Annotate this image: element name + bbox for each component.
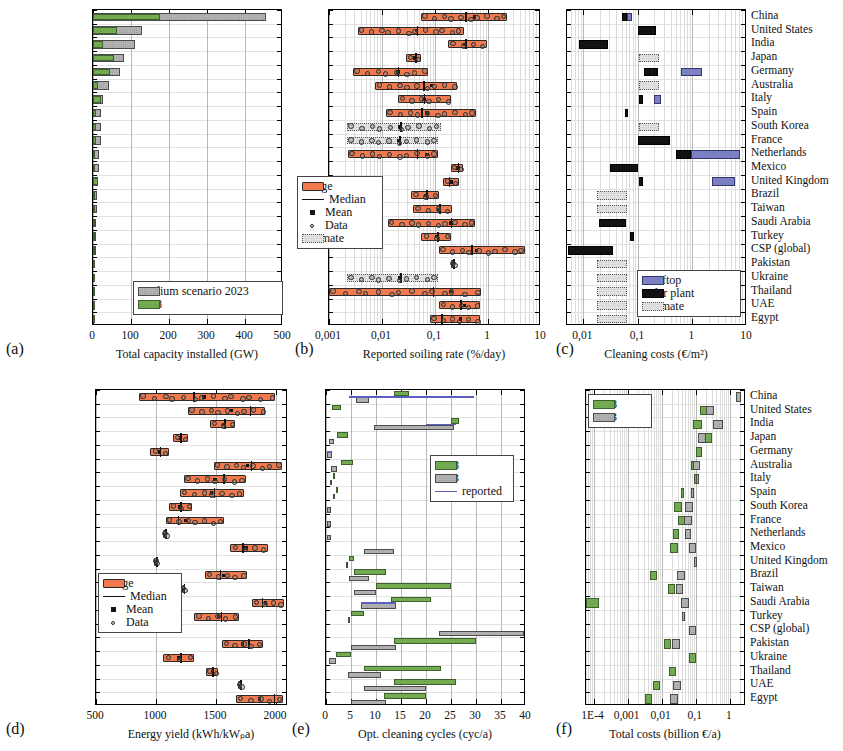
axis-tick-right [741,65,745,66]
bar-2023 [677,571,685,581]
legend-key-2018 [138,300,160,309]
x-tick-label: 0,001 [315,330,341,342]
axis-tick-left [326,445,330,446]
bar-2018 [93,27,117,34]
bar-2023 [351,700,386,705]
axis-tick-bottom [216,699,217,704]
grid-line-minor [581,10,582,324]
axis-tick-left [96,679,100,680]
grid-line-minor [571,10,572,324]
data-point [431,151,436,156]
country-label: Australia [750,459,843,471]
data-point [502,247,507,252]
axis-tick-left [586,541,590,542]
data-point [183,588,188,593]
bar-2018 [693,420,701,430]
axis-tick-bottom [583,319,584,324]
data-point [377,82,382,87]
bar-solar-plant [610,164,638,173]
axis-tick-left [96,459,100,460]
data-point [267,699,272,704]
bar-2023 [348,672,382,677]
country-label: India [751,37,843,49]
axis-tick-bottom [326,699,327,704]
axis-tick-right [535,202,539,203]
axis-tick-right [535,271,539,272]
plot-area-b [328,9,540,325]
bar-estimate [639,54,659,63]
data-point [215,410,220,415]
legend-row: Estimate [642,300,735,313]
axis-tick-right [535,24,539,25]
grid-line-horizontal [326,404,524,405]
bar-2023 [689,626,697,636]
axis-tick-bottom [501,699,502,704]
bar-2023 [673,681,680,691]
axis-tick-left [567,37,571,38]
grid-line-minor [745,10,746,324]
axis-title-b: Reported soiling rate (%/day) [363,347,505,362]
grid-line-vertical [501,390,502,704]
plot-area-a [92,9,282,325]
axis-tick-right [282,500,286,501]
axis-tick-right [282,596,286,597]
country-label: Mexico [750,541,843,553]
axis-tick-left [326,404,330,405]
grid-line-vertical [488,10,489,324]
grid-line-horizontal [93,79,281,80]
axis-tick-left [567,175,571,176]
axis-tick-left [93,312,97,313]
axis-tick-right [520,555,524,556]
data-point [376,277,381,282]
bar-2018 [394,679,457,684]
data-point [466,250,471,255]
data-point [164,533,169,538]
country-label: Turkey [751,230,843,242]
country-label: Ukraine [751,271,843,283]
bar-2018 [93,82,98,89]
grid-line-minor [533,10,534,324]
axis-tick-bottom [488,319,489,324]
bar-2023 [694,557,697,567]
grid-line-minor [476,10,477,324]
bar-2018 [93,288,95,295]
data-point [442,111,447,116]
country-label: Japan [751,51,843,63]
grid-line-horizontal [93,189,281,190]
legend-label: reported [462,484,502,499]
data-point [359,139,364,144]
axis-tick-right [741,202,745,203]
grid-line-horizontal [93,161,281,162]
axis-tick-bottom [382,319,383,324]
axis-tick-left [326,541,330,542]
axis-tick-right [282,527,286,528]
data-point [431,316,436,321]
bar-solar-plant [638,136,670,145]
data-point [219,491,224,496]
grid-line-horizontal [96,555,286,556]
axis-tick-left [93,147,97,148]
grid-line-minor [740,390,741,704]
data-point [475,303,480,308]
bar-2023 [327,452,332,457]
data-point [229,493,234,498]
data-point [240,396,245,401]
data-point [387,110,392,115]
data-point [163,451,168,456]
data-point [241,573,246,578]
country-label: Netherlands [750,527,843,539]
axis-tick-right [520,431,524,432]
grid-line-minor [604,390,605,704]
data-point [408,55,413,60]
grid-line-horizontal [93,24,281,25]
axis-tick-bottom [662,699,663,704]
bar-2023 [327,521,331,526]
bar-2023 [329,658,337,663]
bar-2018 [645,694,652,704]
axis-tick-left [96,486,100,487]
axis-tick-right [277,92,281,93]
bar-2023 [685,502,693,512]
legend-key-reported [435,491,457,492]
legend-panel-b: RangeMedianMeanDataEstimate [297,176,383,249]
bar-2018 [93,233,95,240]
